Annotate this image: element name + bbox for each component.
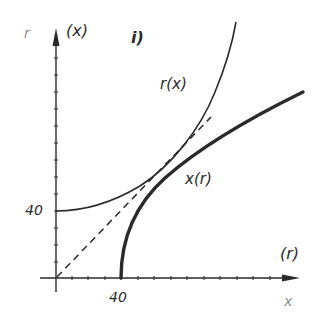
- y-axis-arrow-icon: [53, 28, 60, 46]
- y-axis-label: (x): [66, 23, 88, 39]
- x-axis-arrow-icon: [282, 275, 300, 282]
- curve-x-of-r-label: x(r): [185, 172, 212, 187]
- curve-x-of-r: [121, 92, 303, 278]
- x-tick-label-40: 40: [109, 290, 127, 304]
- y-axis-secondary-label: r: [24, 26, 31, 40]
- x-axis-label: (r): [280, 246, 299, 262]
- plot-canvas: [0, 0, 322, 335]
- x-axis-secondary-label: x: [284, 294, 293, 308]
- y-axis: [53, 28, 60, 292]
- panel-label: i): [131, 30, 144, 46]
- y-tick-label-40: 40: [25, 203, 43, 217]
- inverse-function-diagram: r (x) i) r(x) x(r) 40 40 (r) x: [0, 0, 322, 335]
- x-axis: [40, 275, 300, 282]
- curve-r-of-x-label: r(x): [160, 77, 187, 92]
